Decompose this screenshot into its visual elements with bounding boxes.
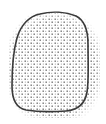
stipple-drawing bbox=[0, 0, 106, 124]
stipple-area bbox=[0, 0, 106, 124]
stipple-figure bbox=[0, 0, 106, 124]
